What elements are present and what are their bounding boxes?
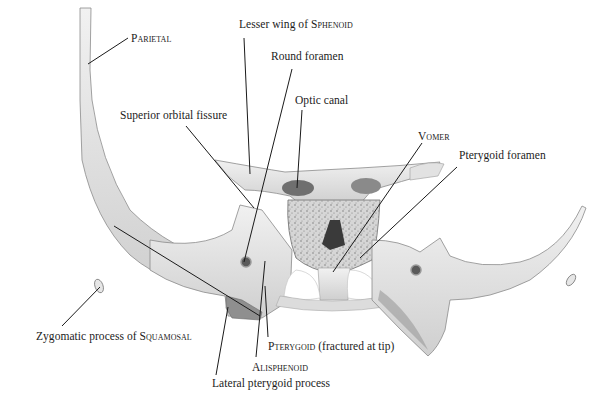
label-pterygoid: Pterygoid (fractured at tip) — [268, 340, 394, 353]
label-text: Pterygoid foramen — [459, 149, 546, 161]
label-text-sc: Pterygoid — [268, 340, 315, 352]
label-zygomatic-process: Zygomatic process of Squamosal — [36, 330, 192, 343]
vomer-column — [318, 268, 350, 300]
leader-line-lesser-wing — [244, 38, 250, 174]
leader-line-parietal — [88, 38, 128, 64]
left-round-foramen — [241, 257, 251, 267]
label-text: Optic canal — [295, 94, 348, 106]
right-great-wing — [372, 206, 586, 356]
label-text-sc: Vomer — [418, 130, 450, 142]
right-zygomatic-fragment — [564, 273, 577, 288]
right-optic-canal — [351, 178, 381, 194]
label-optic-canal: Optic canal — [295, 94, 348, 107]
label-text-sc: Squamosal — [140, 330, 192, 342]
label-text: Lesser wing of — [239, 18, 311, 30]
label-text: Zygomatic process of — [36, 330, 140, 342]
label-text: Parietal — [131, 32, 171, 44]
label-superior-orbital-fissure: Superior orbital fissure — [120, 109, 227, 122]
label-lesser-wing: Lesser wing of Sphenoid — [239, 18, 353, 31]
label-alisphenoid: Alisphenoid — [252, 361, 308, 374]
label-text-sc: Sphenoid — [311, 18, 353, 30]
label-text: Lateral pterygoid process — [212, 377, 330, 389]
sphenoid-illustration: Parietal Lesser wing of Sphenoid Round f… — [0, 0, 612, 416]
leader-line-zygomatic-process — [62, 287, 100, 326]
label-parietal: Parietal — [131, 32, 171, 45]
label-text: Round foramen — [271, 50, 344, 62]
label-vomer: Vomer — [418, 130, 450, 143]
left-optic-canal — [282, 180, 314, 196]
label-pterygoid-foramen: Pterygoid foramen — [459, 149, 546, 162]
label-round-foramen: Round foramen — [271, 50, 344, 63]
left-zygomatic-fragment — [93, 278, 105, 294]
label-lateral-pterygoid-process: Lateral pterygoid process — [212, 377, 330, 390]
label-text: Superior orbital fissure — [120, 109, 227, 121]
leader-line-lateral-pterygoid-process — [216, 307, 228, 375]
right-round-foramen — [411, 265, 421, 275]
label-text: (fractured at tip) — [315, 340, 394, 352]
label-text-sc: Alisphenoid — [252, 361, 308, 373]
